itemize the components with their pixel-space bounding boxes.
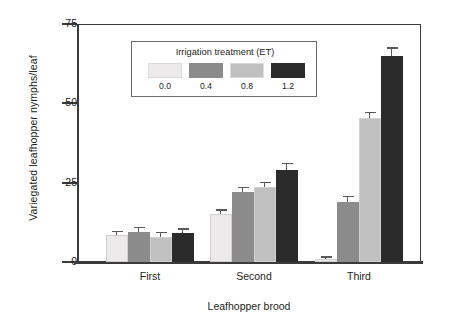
x-group-label-second: Second (194, 270, 314, 282)
error-bar-stem (286, 164, 287, 170)
error-bar-cap (365, 112, 376, 113)
error-bar-stem (369, 113, 370, 118)
y-tick-label: 50 (37, 96, 77, 108)
bar-rect (232, 192, 254, 262)
error-bar-cap (260, 182, 271, 183)
bar-rect (276, 170, 298, 262)
bar-first-0.0[interactable] (106, 24, 128, 262)
bar-rect (254, 187, 276, 262)
error-bar-cap (156, 232, 167, 233)
legend-item-1.2[interactable]: 1.2 (271, 63, 305, 91)
bar-rect (150, 237, 172, 262)
error-bar-stem (116, 232, 117, 235)
chart-figure: Variegated leafhopper nymphs/leaf 025507… (0, 0, 459, 322)
bar-rect (128, 232, 150, 262)
bar-rect (315, 259, 337, 262)
bar-rect (381, 56, 403, 262)
bar-rect (337, 202, 359, 262)
bar-third-1.2[interactable] (381, 24, 403, 262)
bar-third-0.4[interactable] (337, 24, 359, 262)
bar-rect (359, 118, 381, 262)
error-bar-cap (178, 228, 189, 229)
bar-rect (106, 235, 128, 262)
x-axis-title: Leafhopper brood (77, 300, 421, 312)
bar-third-0.8[interactable] (359, 24, 381, 262)
error-bar-cap (112, 231, 123, 232)
legend-label: 0.4 (189, 81, 223, 91)
legend-item-0.0[interactable]: 0.0 (148, 63, 182, 91)
error-bar-cap (216, 209, 227, 210)
legend-swatch (230, 63, 264, 78)
bar-rect (210, 214, 232, 262)
error-bar-cap (134, 227, 145, 228)
error-bar-stem (138, 228, 139, 231)
x-group-label-third: Third (299, 270, 419, 282)
y-axis-title: Variegated leafhopper nymphs/leaf (27, 13, 39, 263)
error-bar-stem (325, 258, 326, 259)
bar-rect (172, 233, 194, 262)
x-group-label-first: First (90, 270, 210, 282)
error-bar-stem (220, 211, 221, 215)
legend-label: 0.0 (148, 81, 182, 91)
legend-item-0.8[interactable]: 0.8 (230, 63, 264, 91)
legend-swatch (148, 63, 182, 78)
error-bar-stem (347, 197, 348, 201)
error-bar-cap (238, 187, 249, 188)
error-bar-stem (391, 49, 392, 56)
bar-third-0.0[interactable] (315, 24, 337, 262)
error-bar-stem (182, 230, 183, 234)
error-bar-stem (264, 183, 265, 187)
y-tick-label: 25 (37, 176, 77, 188)
error-bar-cap (321, 256, 332, 257)
error-bar-cap (387, 47, 398, 48)
error-bar-cap (282, 163, 293, 164)
legend: Irrigation treatment (ET) 0.00.40.81.2 (131, 41, 317, 97)
legend-item-0.4[interactable]: 0.4 (189, 63, 223, 91)
error-bar-stem (242, 188, 243, 192)
legend-label: 1.2 (271, 81, 305, 91)
error-bar-stem (160, 233, 161, 236)
legend-swatch (271, 63, 305, 78)
legend-label: 0.8 (230, 81, 264, 91)
legend-title: Irrigation treatment (ET) (132, 47, 318, 57)
bar-group-third (315, 24, 403, 262)
legend-swatch (189, 63, 223, 78)
y-tick-label: 0 (37, 255, 77, 267)
y-tick-label: 75 (37, 17, 77, 29)
error-bar-cap (343, 196, 354, 197)
